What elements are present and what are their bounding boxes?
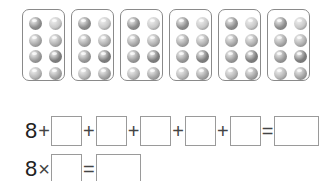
ball-icon	[127, 67, 140, 80]
addend-blank-4[interactable]	[185, 116, 216, 146]
ball-icon	[29, 34, 42, 47]
equals-sign: =	[262, 121, 274, 141]
plus-sign: +	[128, 121, 140, 141]
ball-icon	[78, 34, 91, 47]
plus-sign: +	[172, 121, 184, 141]
multiplication-equation: 8 × =	[25, 154, 141, 181]
ball-card	[218, 9, 261, 81]
ball-icon	[127, 50, 140, 63]
ball-icon	[245, 17, 258, 30]
ball-icon	[225, 50, 238, 63]
ball-icon	[49, 50, 62, 63]
ball-icon	[147, 67, 160, 80]
ball-icon	[196, 34, 209, 47]
ball-icon	[98, 50, 111, 63]
factor-blank[interactable]	[51, 154, 82, 181]
ball-icon	[274, 67, 287, 80]
times-sign: ×	[38, 159, 50, 179]
ball-icon	[294, 34, 307, 47]
addend-8: 8	[25, 120, 37, 142]
plus-sign: +	[217, 121, 229, 141]
ball-card	[267, 9, 310, 81]
ball-icon	[98, 17, 111, 30]
ball-icon	[294, 17, 307, 30]
ball-icon	[49, 17, 62, 30]
ball-icon	[49, 34, 62, 47]
ball-icon	[29, 50, 42, 63]
ball-icon	[176, 50, 189, 63]
ball-icon	[78, 50, 91, 63]
addend-blank-3[interactable]	[140, 116, 171, 146]
ball-icon	[245, 34, 258, 47]
ball-icon	[147, 34, 160, 47]
ball-cards	[22, 9, 310, 81]
ball-card	[22, 9, 65, 81]
equals-sign: =	[83, 159, 95, 179]
ball-icon	[98, 67, 111, 80]
ball-icon	[245, 50, 258, 63]
ball-icon	[147, 17, 160, 30]
ball-icon	[196, 17, 209, 30]
ball-icon	[29, 17, 42, 30]
ball-icon	[225, 34, 238, 47]
ball-icon	[196, 67, 209, 80]
ball-icon	[98, 34, 111, 47]
addend-blank-5[interactable]	[230, 116, 261, 146]
ball-icon	[225, 67, 238, 80]
ball-icon	[78, 17, 91, 30]
addition-equation: 8 + + + + + =	[25, 116, 319, 146]
ball-icon	[274, 34, 287, 47]
ball-icon	[176, 17, 189, 30]
ball-icon	[49, 67, 62, 80]
ball-icon	[127, 17, 140, 30]
addend-blank-2[interactable]	[96, 116, 127, 146]
ball-icon	[225, 17, 238, 30]
factor-8: 8	[25, 158, 37, 180]
addend-blank-1[interactable]	[51, 116, 82, 146]
product-answer-blank[interactable]	[96, 154, 141, 181]
ball-icon	[176, 67, 189, 80]
ball-icon	[294, 50, 307, 63]
ball-icon	[274, 17, 287, 30]
ball-icon	[29, 67, 42, 80]
plus-sign: +	[38, 121, 50, 141]
sum-answer-blank[interactable]	[274, 116, 319, 146]
ball-card	[120, 9, 163, 81]
ball-icon	[78, 67, 91, 80]
ball-icon	[245, 67, 258, 80]
ball-icon	[274, 50, 287, 63]
plus-sign: +	[83, 121, 95, 141]
ball-icon	[196, 50, 209, 63]
ball-card	[169, 9, 212, 81]
ball-icon	[176, 34, 189, 47]
ball-card	[71, 9, 114, 81]
ball-icon	[147, 50, 160, 63]
ball-icon	[294, 67, 307, 80]
ball-icon	[127, 34, 140, 47]
